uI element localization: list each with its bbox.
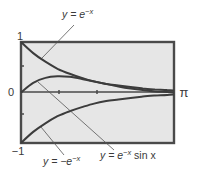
label-exp-decay: y = e−x bbox=[61, 7, 93, 20]
chart: 1 0 −1 π y = e−x y = e−x sin x y = −e−x bbox=[0, 0, 197, 179]
label-damped-sine-tail: sin x bbox=[131, 149, 156, 161]
x-label-pi: π bbox=[180, 85, 189, 100]
y-label-top: 1 bbox=[17, 30, 23, 42]
label-exp-decay-exponent: −x bbox=[85, 7, 93, 16]
label-damped-sine-exponent: −x bbox=[123, 148, 131, 157]
y-label-zero: 0 bbox=[8, 86, 14, 98]
label-damped-sine: y = e−x sin x bbox=[99, 148, 156, 161]
label-neg-exp-decay: y = −e−x bbox=[42, 154, 81, 167]
label-neg-exp-decay-base: y = −e bbox=[42, 155, 72, 167]
label-neg-exp-decay-exponent: −x bbox=[72, 154, 80, 163]
label-damped-sine-base: y = e bbox=[99, 149, 123, 161]
y-label-bottom: −1 bbox=[12, 145, 25, 157]
label-exp-decay-base: y = e bbox=[61, 8, 85, 20]
